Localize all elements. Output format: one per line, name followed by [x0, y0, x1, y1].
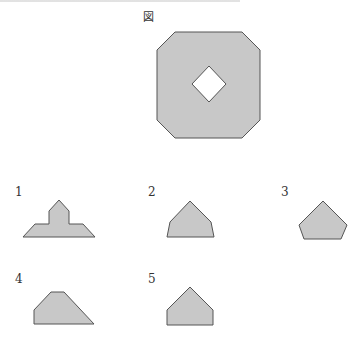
option-4-shape[interactable] — [34, 292, 94, 324]
option-4-label[interactable]: 4 — [15, 273, 23, 286]
option-5-label[interactable]: 5 — [148, 273, 156, 286]
option-1-label[interactable]: 1 — [15, 186, 23, 199]
option-2-label[interactable]: 2 — [148, 186, 156, 199]
option-3-label[interactable]: 3 — [281, 186, 289, 199]
option-3-shape[interactable] — [299, 201, 347, 239]
main-figure — [157, 32, 260, 138]
figure-canvas — [0, 0, 362, 344]
option-2-shape[interactable] — [167, 201, 214, 237]
option-5-shape[interactable] — [167, 287, 213, 325]
option-1-shape[interactable] — [23, 200, 95, 237]
